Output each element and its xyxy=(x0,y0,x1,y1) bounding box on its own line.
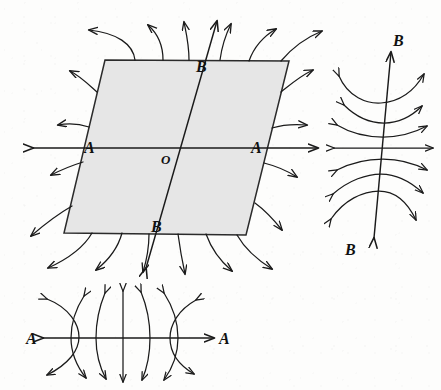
label-section-aa-right: A xyxy=(218,330,230,347)
label-section-bb-bottom: B xyxy=(344,241,356,258)
section-bb-axis xyxy=(374,52,391,238)
top-field-lines xyxy=(89,22,322,61)
perspective-view: A A B B O xyxy=(31,21,322,274)
section-aa-field-lines xyxy=(47,291,196,382)
label-axis-a-right: A xyxy=(250,139,262,156)
label-center-o: O xyxy=(161,152,171,167)
label-section-aa-left: A xyxy=(25,330,37,347)
label-section-bb-top: B xyxy=(392,32,404,49)
label-axis-b-top: B xyxy=(195,58,207,75)
label-axis-a-left: A xyxy=(83,139,95,156)
label-axis-b-bottom: B xyxy=(150,218,162,235)
figure-root: of the electric field of to the followin… xyxy=(0,0,441,390)
section-a-a: A A xyxy=(25,291,230,382)
section-b-b: B B xyxy=(331,32,433,258)
bottom-field-lines xyxy=(48,233,272,274)
field-line-diagram: A A B B O B B xyxy=(0,0,441,390)
